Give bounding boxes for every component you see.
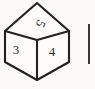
cube-face-label-left: 3	[13, 42, 20, 57]
cube-face-label-right: 4	[49, 44, 56, 59]
cube-figure-canvas: 5 3 4	[0, 0, 95, 89]
cube-diagram-svg: 5 3 4	[0, 0, 95, 89]
